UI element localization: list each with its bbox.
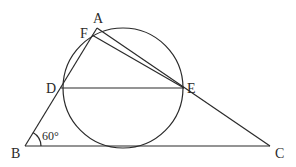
label-c: C: [275, 146, 284, 161]
label-b: B: [11, 146, 20, 161]
label-d: D: [46, 81, 56, 96]
segment-ab: [25, 28, 97, 146]
label-a: A: [93, 11, 104, 26]
segment-fe: [92, 35, 184, 88]
geometry-diagram: A F D E B C 60°: [0, 0, 296, 167]
diagram-canvas: A F D E B C 60°: [0, 0, 296, 167]
label-f: F: [80, 26, 88, 41]
segment-ac: [97, 28, 270, 146]
angle-b-arc-icon: [33, 133, 41, 147]
angle-b-label: 60°: [42, 129, 59, 143]
label-e: E: [187, 81, 196, 96]
